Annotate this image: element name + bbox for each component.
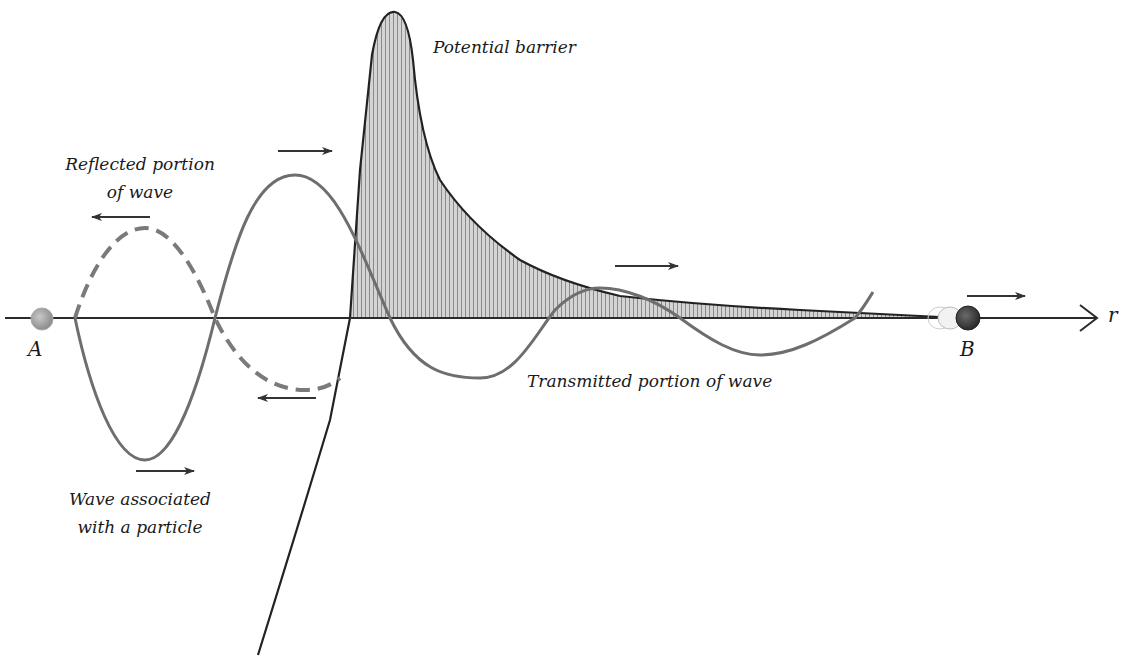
barrier-outline <box>258 12 960 655</box>
potential-barrier <box>258 12 960 655</box>
potential-barrier-label: Potential barrier <box>433 36 576 58</box>
incident-label-line2: with a particle <box>30 516 250 538</box>
reflected-wave <box>75 228 340 390</box>
tunneling-diagram <box>0 0 1143 663</box>
r-axis-label: r <box>1108 304 1118 326</box>
incident-label-line1: Wave associated <box>30 488 250 510</box>
particle-a-icon <box>31 308 53 330</box>
transmitted-wave-label: Transmitted portion of wave <box>527 370 772 392</box>
incident-wave-label: Wave associated with a particle <box>30 488 250 538</box>
reflected-label-line2: of wave <box>30 181 250 203</box>
reflected-label-line1: Reflected portion <box>30 153 250 175</box>
point-a-label: A <box>28 338 42 360</box>
point-b-label: B <box>960 338 975 360</box>
reflected-wave-label: Reflected portion of wave <box>30 153 250 203</box>
